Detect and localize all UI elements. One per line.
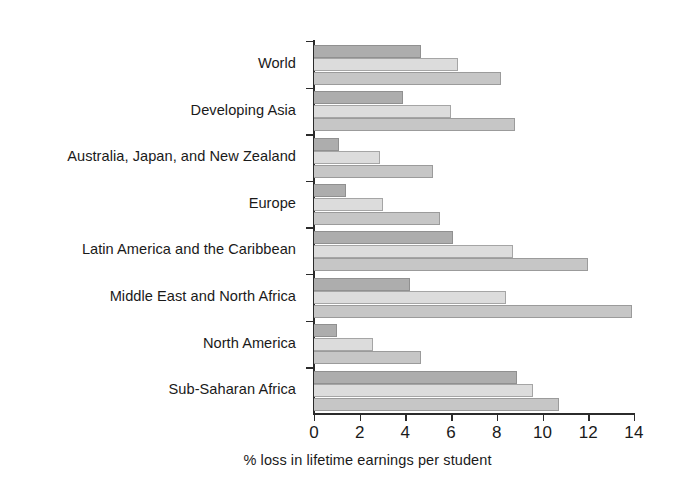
x-axis-tick bbox=[451, 414, 452, 421]
bar bbox=[314, 165, 433, 178]
bar bbox=[314, 138, 339, 151]
category-label: North America bbox=[0, 335, 296, 351]
bar bbox=[314, 305, 632, 318]
bar bbox=[314, 324, 337, 337]
bar bbox=[314, 245, 513, 258]
bar bbox=[314, 212, 440, 225]
bar bbox=[314, 184, 346, 197]
bar bbox=[314, 258, 588, 271]
y-axis-tick bbox=[306, 134, 314, 135]
x-axis-tick-label: 12 bbox=[568, 423, 608, 443]
y-axis-tick bbox=[306, 181, 314, 182]
y-axis-tick bbox=[306, 321, 314, 322]
bar bbox=[314, 72, 501, 85]
x-axis-tick-label: 6 bbox=[431, 423, 471, 443]
category-label: Sub-Saharan Africa bbox=[0, 381, 296, 397]
y-axis-tick bbox=[306, 227, 314, 228]
x-axis-tick-label: 0 bbox=[294, 423, 334, 443]
x-axis-tick bbox=[314, 414, 315, 421]
category-label: Developing Asia bbox=[0, 102, 296, 118]
x-axis-tick bbox=[360, 414, 361, 421]
x-axis-tick bbox=[497, 414, 498, 421]
bar bbox=[314, 91, 403, 104]
bar bbox=[314, 231, 453, 244]
y-axis-tick bbox=[306, 88, 314, 89]
y-axis-tick bbox=[306, 367, 314, 368]
x-axis-tick bbox=[543, 414, 544, 421]
bar bbox=[314, 198, 383, 211]
x-axis-tick-label: 4 bbox=[385, 423, 425, 443]
x-axis-tick-label: 14 bbox=[614, 423, 654, 443]
bar-chart-figure: 02468101214 WorldDeveloping AsiaAustrali… bbox=[0, 0, 683, 491]
bar bbox=[314, 371, 517, 384]
x-axis-title: % loss in lifetime earnings per student bbox=[0, 452, 683, 468]
bar bbox=[314, 45, 421, 58]
bar bbox=[314, 398, 559, 411]
category-label: World bbox=[0, 55, 296, 71]
x-axis-tick-label: 10 bbox=[523, 423, 563, 443]
x-axis-tick-label: 8 bbox=[477, 423, 517, 443]
category-label: Australia, Japan, and New Zealand bbox=[0, 148, 296, 164]
x-axis-tick-label: 2 bbox=[340, 423, 380, 443]
bar bbox=[314, 384, 533, 397]
category-label: Latin America and the Caribbean bbox=[0, 241, 296, 257]
y-axis-tick bbox=[306, 274, 314, 275]
x-axis-tick bbox=[588, 414, 589, 421]
bar bbox=[314, 278, 410, 291]
plot-area bbox=[314, 40, 634, 413]
bar bbox=[314, 151, 380, 164]
bar bbox=[314, 291, 506, 304]
category-label: Middle East and North Africa bbox=[0, 288, 296, 304]
bar bbox=[314, 338, 373, 351]
category-label: Europe bbox=[0, 195, 296, 211]
x-axis-tick bbox=[405, 414, 406, 421]
bar bbox=[314, 58, 458, 71]
y-axis-tick bbox=[306, 41, 314, 42]
bar bbox=[314, 118, 515, 131]
bar bbox=[314, 351, 421, 364]
x-axis-tick bbox=[634, 414, 635, 421]
x-axis-line bbox=[313, 413, 635, 415]
bar bbox=[314, 105, 451, 118]
